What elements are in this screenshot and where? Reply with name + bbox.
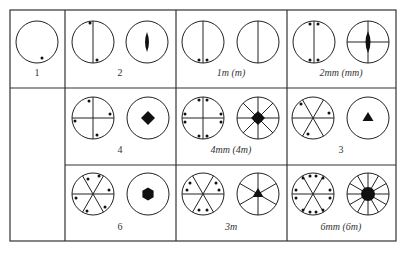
label-2mm: 2mm (mm) <box>306 67 376 78</box>
stereogram-2mm-poles <box>293 21 335 63</box>
stereogram-6mm-poles <box>292 173 334 215</box>
stereogram-6-symmetry <box>127 173 169 215</box>
stereogram-4mm-poles <box>182 97 224 139</box>
stereogram-2-symmetry <box>126 21 168 63</box>
stereogram-1 <box>16 21 58 63</box>
label-6: 6 <box>110 221 130 232</box>
stereogram-m-symmetry <box>237 21 279 63</box>
label-2: 2 <box>110 67 130 78</box>
label-4: 4 <box>110 144 130 155</box>
stereogram-m-poles <box>182 21 224 63</box>
label-3m: 3m <box>211 221 251 232</box>
label-m: 1m (m) <box>201 67 261 78</box>
stereogram-3m-symmetry <box>237 173 279 215</box>
label-6mm: 6mm (6m) <box>306 221 376 232</box>
stereogram-3-poles <box>292 97 334 139</box>
stereogram-2mm-symmetry <box>347 21 389 63</box>
stereogram-3-symmetry <box>347 97 389 139</box>
stereogram-6-poles <box>72 173 114 215</box>
label-3: 3 <box>331 144 351 155</box>
stereogram-2-poles <box>72 21 114 63</box>
stereogram-4-poles <box>72 97 114 139</box>
stereogram-4mm-symmetry <box>237 97 279 139</box>
stereogram-4-symmetry <box>127 97 169 139</box>
point-group-diagram <box>0 0 407 253</box>
label-1: 1 <box>27 67 47 78</box>
stereogram-3m-poles <box>182 173 224 215</box>
stereogram-6mm-symmetry <box>347 173 389 215</box>
label-4mm: 4mm (4m) <box>196 144 266 155</box>
